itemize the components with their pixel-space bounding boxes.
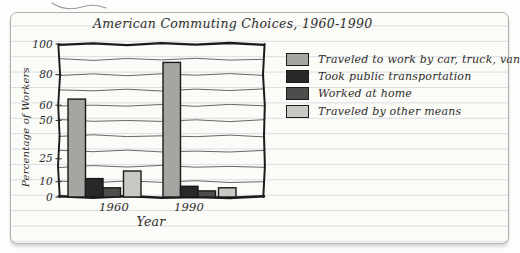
bar-1960-series1 [86, 179, 104, 197]
y-tick-label-50: 50 [39, 114, 53, 126]
legend-label-car: Traveled to work by car, truck, van [318, 53, 520, 66]
legend-swatch-car-icon [286, 53, 309, 66]
y-tick-label-60: 60 [39, 99, 53, 111]
gridline-20 [59, 165, 264, 167]
legend-item-other-means: Traveled by other means [286, 103, 520, 120]
chart-legend: Traveled to work by car, truck, van Took… [286, 51, 520, 120]
gridline-60 [59, 104, 264, 106]
legend-swatch-other-means-icon [286, 105, 309, 118]
gridline-70 [59, 89, 264, 91]
x-axis-title: Year [137, 214, 167, 229]
x-category-label-1990: 1990 [174, 200, 204, 214]
legend-swatch-public-transit-icon [286, 70, 309, 83]
y-tick-label-100: 100 [32, 38, 53, 50]
x-category-label-1960: 1960 [99, 200, 129, 214]
cropped-handwriting-mark [48, 0, 108, 11]
notebook-paper-card: American Commuting Choices, 1960-1990 10… [10, 12, 509, 244]
legend-swatch-worked-at-home-icon [286, 87, 309, 100]
y-tick-label-0: 0 [46, 191, 53, 203]
y-axis-title: Percentage of Workers [21, 67, 31, 188]
legend-label-public-transit: Took public transportation [318, 70, 471, 83]
gridline-40 [59, 135, 264, 137]
legend-label-worked-at-home: Worked at home [318, 87, 412, 100]
bar-1960-series0 [68, 99, 86, 197]
page-background: American Commuting Choices, 1960-1990 10… [0, 0, 520, 253]
chart-title: American Commuting Choices, 1960-1990 [93, 16, 372, 31]
legend-item-public-transit: Took public transportation [286, 68, 520, 85]
legend-item-car: Traveled to work by car, truck, van [286, 51, 520, 68]
bar-1990-series3 [219, 188, 237, 197]
bar-1990-series1 [181, 186, 199, 197]
y-tick-label-10: 10 [39, 175, 53, 187]
y-tick-label-80: 80 [39, 68, 53, 80]
gridline-90 [59, 58, 264, 60]
bar-chart-canvas: 1008060502510019601990YearPercentage of … [21, 31, 283, 236]
gridline-30 [59, 150, 264, 152]
bar-1990-series2 [198, 191, 216, 197]
plot-frame-top [59, 43, 264, 45]
bar-1960-series2 [103, 188, 121, 197]
plot-frame-right [263, 44, 265, 197]
gridline-80 [59, 74, 264, 76]
gridline-50 [59, 120, 264, 122]
bar-1960-series3 [124, 171, 142, 197]
legend-label-other-means: Traveled by other means [318, 105, 461, 118]
y-tick-label-25: 25 [38, 152, 53, 164]
legend-item-worked-at-home: Worked at home [286, 85, 520, 102]
bar-1990-series0 [163, 62, 181, 197]
